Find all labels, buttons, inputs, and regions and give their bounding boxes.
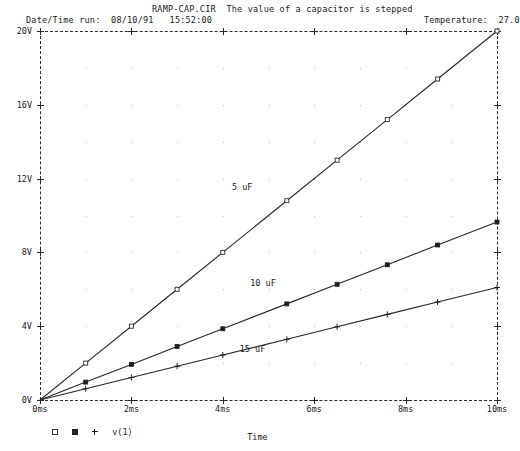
series-annotation: 15 uF <box>240 344 266 354</box>
data-point-marker <box>334 324 340 330</box>
x-tick-label: 8ms <box>398 404 413 414</box>
x-tick-label: 4ms <box>215 404 230 414</box>
x-tick-label: 10ms <box>487 404 507 414</box>
y-tick-label: 20V <box>0 26 32 36</box>
legend-trace-label: v(1) <box>112 427 132 437</box>
series-annotation: 5 uF <box>232 182 252 192</box>
legend: v(1) <box>42 416 133 437</box>
x-tick-label: 2ms <box>124 404 139 414</box>
open-square-marker-icon <box>52 429 58 435</box>
data-point-marker <box>495 29 499 33</box>
curve-5-uf <box>40 31 497 400</box>
data-point-marker <box>129 324 133 328</box>
data-point-marker <box>84 380 88 384</box>
y-tick-label: 8V <box>0 247 32 257</box>
data-point-marker <box>175 287 179 291</box>
filled-square-marker-icon <box>72 429 78 435</box>
data-point-marker <box>129 362 133 366</box>
data-point-marker <box>221 327 225 331</box>
data-point-marker <box>84 361 88 365</box>
data-point-marker <box>385 118 389 122</box>
data-point-marker <box>221 250 225 254</box>
data-point-marker <box>494 285 500 291</box>
y-tick-label: 16V <box>0 100 32 110</box>
temperature-label: Temperature: 27.0 <box>424 15 520 25</box>
data-point-marker <box>284 336 290 342</box>
data-point-marker <box>83 386 89 392</box>
x-tick-label: 6ms <box>307 404 322 414</box>
data-point-marker <box>175 345 179 349</box>
data-point-marker <box>174 363 180 369</box>
curve-15-uf <box>40 287 497 400</box>
y-tick-label: 0V <box>0 395 32 405</box>
plot-title: RAMP-CAP.CIR The value of a capacitor is… <box>152 4 413 14</box>
data-point-marker <box>495 220 499 224</box>
datetime-run-label: Date/Time run: 08/10/91 15:52:00 <box>26 15 212 25</box>
data-point-marker <box>435 299 441 305</box>
data-point-marker <box>128 375 134 381</box>
data-point-marker <box>436 243 440 247</box>
curve-10-uf <box>40 222 497 400</box>
plot-area: 5 uF10 uF15 uF <box>40 31 497 400</box>
y-tick-label: 12V <box>0 174 32 184</box>
series-annotation: 10 uF <box>250 278 276 288</box>
data-point-marker <box>220 352 226 358</box>
data-point-marker <box>285 302 289 306</box>
x-tick-label: 0ms <box>32 404 47 414</box>
data-point-marker <box>335 158 339 162</box>
curve-layer <box>40 31 500 403</box>
data-point-marker <box>285 199 289 203</box>
data-point-marker <box>384 311 390 317</box>
data-point-marker <box>436 77 440 81</box>
y-tick-label: 4V <box>0 321 32 331</box>
data-point-marker <box>385 263 389 267</box>
plus-marker-icon <box>92 429 98 435</box>
data-point-marker <box>335 282 339 286</box>
